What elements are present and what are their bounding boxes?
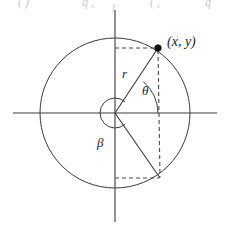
figure-root: ( ) q , ( , q i r θ β (x, y) [0, 0, 227, 228]
point-label: (x, y) [167, 34, 196, 50]
radius-label: r [122, 66, 128, 81]
beta-label: β [96, 135, 104, 150]
polar-coordinates-diagram: ( ) q , ( , q i r θ β (x, y) [0, 0, 227, 228]
point-marker [155, 45, 161, 51]
theta-label: θ [142, 83, 149, 98]
cropped-fragment-1: ( ) [18, 0, 29, 9]
cropped-fragment-4: q [205, 0, 211, 9]
cropped-fragment-2: q , [82, 0, 94, 9]
lower-ray [115, 113, 160, 178]
cropped-fragment-3: ( , [150, 0, 160, 9]
